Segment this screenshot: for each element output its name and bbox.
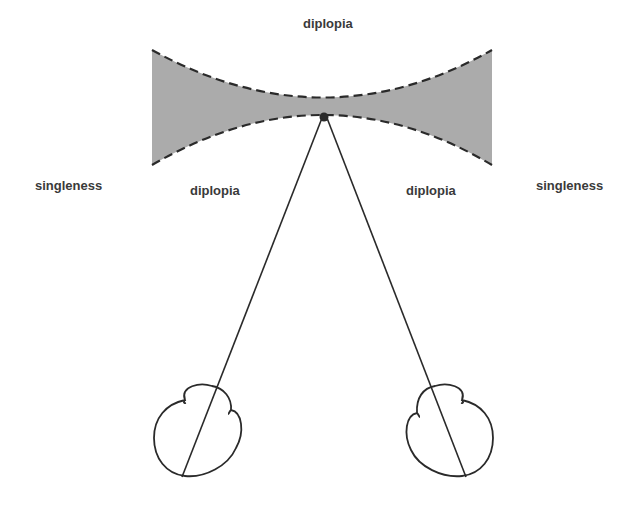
- label-singleness-right: singleness: [536, 178, 603, 193]
- left-eye-icon: [154, 385, 241, 477]
- label-diplopia-right: diplopia: [406, 183, 456, 198]
- right-visual-axis: [327, 118, 466, 477]
- label-diplopia-top: diplopia: [303, 16, 353, 31]
- label-diplopia-left: diplopia: [190, 183, 240, 198]
- left-visual-axis: [182, 118, 322, 477]
- diagram-canvas: [0, 0, 643, 510]
- label-singleness-left: singleness: [35, 178, 102, 193]
- fixation-point: [320, 113, 329, 122]
- right-eye-icon: [406, 385, 493, 477]
- single-vision-zone: [152, 50, 492, 165]
